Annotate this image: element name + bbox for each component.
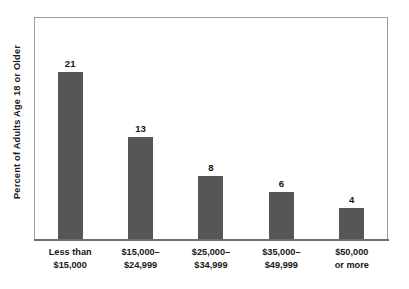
x-axis-tick-label: $15,000– $24,999 (106, 246, 176, 271)
x-axis-tick-label-line2: $24,999 (106, 259, 176, 272)
x-axis-tick-label: $50,000 or more (317, 246, 387, 271)
bar-value-label: 8 (208, 163, 213, 173)
x-axis-tick-label-line1: $15,000– (121, 247, 159, 257)
x-axis-tick-labels: Less than $15,000 $15,000– $24,999 $25,0… (35, 246, 387, 282)
x-axis-tick-label: $35,000– $49,999 (246, 246, 316, 271)
bar-group[interactable]: 13 (106, 18, 176, 240)
x-axis-tick-label-line2: or more (317, 259, 387, 272)
x-axis-tick-label-line1: $25,000– (192, 247, 230, 257)
y-axis-title: Percent of Adults Age 18 or Older (0, 0, 34, 243)
bar-group[interactable]: 4 (317, 18, 387, 240)
x-axis-tick-label-line2: $15,000 (35, 259, 105, 272)
bar-value-label: 4 (349, 195, 354, 205)
bar-group[interactable]: 21 (35, 18, 105, 240)
bar-chart-figure: Percent of Adults Age 18 or Older 21 13 … (0, 0, 409, 289)
x-axis-tick-label: $25,000– $34,999 (176, 246, 246, 271)
x-axis-tick-label-line1: $35,000– (262, 247, 300, 257)
bar-rect[interactable] (269, 192, 294, 240)
x-axis-tick-label: Less than $15,000 (35, 246, 105, 271)
bar-rect[interactable] (339, 208, 364, 240)
x-axis-tick-label-line2: $49,999 (246, 259, 316, 272)
x-axis-tick-label-line1: $50,000 (335, 247, 368, 257)
x-axis-tick-label-line1: Less than (49, 247, 92, 257)
bar-rect[interactable] (58, 72, 83, 240)
bars-container: 21 13 8 6 4 (35, 18, 387, 240)
x-axis-baseline (34, 239, 389, 241)
bar-value-label: 21 (65, 59, 76, 69)
bar-value-label: 6 (279, 179, 284, 189)
y-axis-title-label: Percent of Adults Age 18 or Older (12, 44, 22, 198)
x-axis-tick-label-line2: $34,999 (176, 259, 246, 272)
bar-value-label: 13 (135, 124, 146, 134)
bar-rect[interactable] (198, 176, 223, 240)
bar-group[interactable]: 8 (176, 18, 246, 240)
bar-rect[interactable] (128, 137, 153, 240)
bar-group[interactable]: 6 (246, 18, 316, 240)
